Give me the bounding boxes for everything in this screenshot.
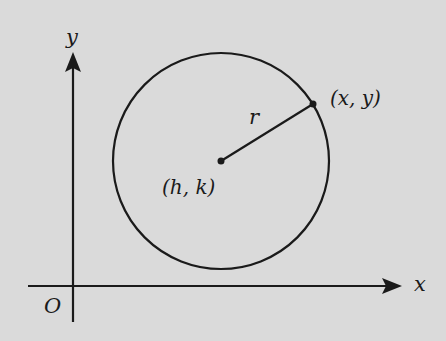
x-axis-label: x	[414, 272, 426, 296]
y-axis-label: y	[65, 25, 79, 49]
y-axis	[65, 52, 81, 322]
center-label: (h, k)	[162, 175, 215, 199]
radius-line	[221, 104, 313, 161]
center-point	[218, 158, 225, 165]
point-label: (x, y)	[330, 86, 381, 110]
x-axis	[28, 278, 402, 294]
radius-label: r	[249, 105, 261, 129]
origin-label: O	[44, 294, 61, 318]
circle-point	[310, 101, 317, 108]
circle-diagram: y x O r (h, k) (x, y)	[0, 0, 446, 341]
